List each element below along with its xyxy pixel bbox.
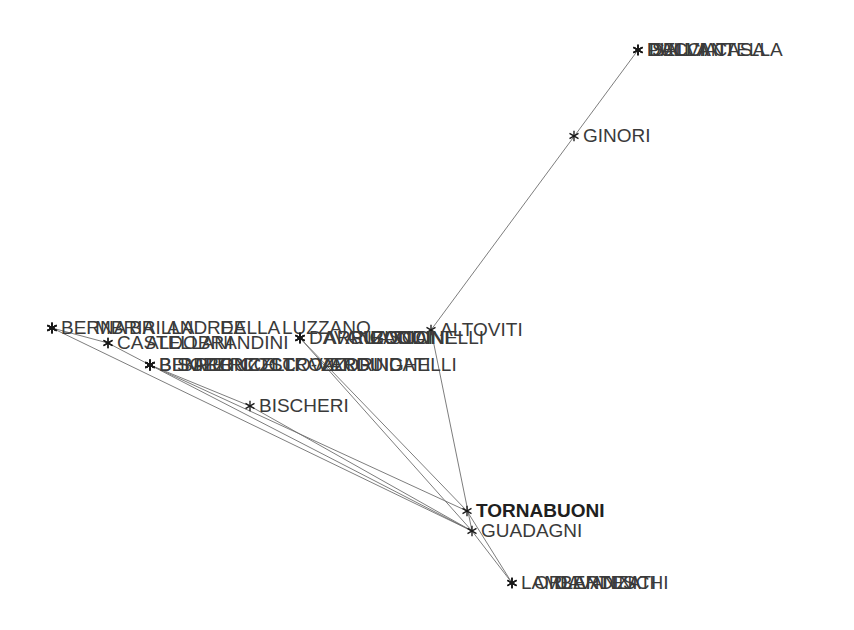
node-label: RONDINELLI [370, 327, 484, 348]
graph-background [0, 0, 854, 630]
node-label: BISCHERI [259, 395, 349, 416]
graph-node[interactable]: DELLA CASA [633, 39, 765, 60]
network-graph: DALL'ANTELLAPUCCISALVIATIDELLA CASAGINOR… [0, 0, 854, 630]
graph-node[interactable]: GUADAGNI [467, 520, 582, 541]
node-label: ALDOBRANDINI [146, 332, 289, 353]
node-label: ARDINGHELLI [330, 354, 457, 375]
graph-node[interactable]: TORNABUONI [462, 500, 604, 521]
node-label: TORNABUONI [476, 500, 604, 521]
node-label: GUADAGNI [481, 520, 582, 541]
node-label: DELLA CASA [649, 39, 765, 60]
graph-node[interactable]: BISCHERI [245, 395, 348, 416]
node-label: GINORI [583, 125, 651, 146]
node-label: DAVANZATI [554, 572, 656, 593]
